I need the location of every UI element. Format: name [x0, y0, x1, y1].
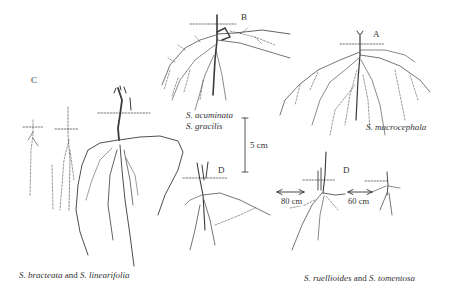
panel-letter-d-right: D: [343, 165, 350, 175]
panel-letter-c: C: [31, 75, 37, 85]
scale-bar-line: [242, 118, 248, 172]
species-label-macrocephala: S. macrocephala: [366, 122, 426, 132]
scale-bar-label: 5 cm: [250, 140, 268, 150]
species-label-acuminata: S. acuminata: [186, 110, 233, 120]
plant-b-roots: [162, 15, 290, 110]
plant-a-roots: [280, 31, 430, 135]
caption-c-species-1: S. bracteata: [19, 270, 63, 280]
root-drawings: [0, 0, 453, 296]
caption-panel-d: S. ruellioides and S. tomentosa: [304, 273, 415, 283]
caption-d-species-1: S. ruellioides: [304, 273, 352, 283]
distance-label-right: 60 cm: [347, 196, 370, 206]
caption-c-and: and: [63, 270, 81, 280]
plant-c-roots: [23, 86, 183, 266]
distance-arrow-left: [277, 190, 304, 195]
panel-letter-d-left: D: [218, 165, 225, 175]
caption-d-species-2: S. tomentosa: [369, 273, 415, 283]
caption-d-and: and: [352, 273, 370, 283]
species-label-gracilis: S. gracilis: [186, 121, 223, 131]
distance-label-left: 80 cm: [280, 196, 303, 206]
plant-d-right-roots: [365, 172, 400, 215]
caption-panel-c: S. bracteata and S. linearifolia: [19, 270, 130, 280]
root-system-figure: B A C D D S. acuminata S. gracilis S. ma…: [0, 0, 453, 296]
caption-c-species-2: S. linearifolia: [80, 270, 130, 280]
distance-arrow-right: [348, 190, 372, 195]
panel-letter-a: A: [373, 29, 380, 39]
panel-letter-b: B: [241, 12, 247, 22]
plant-d-left-roots: [183, 162, 270, 250]
